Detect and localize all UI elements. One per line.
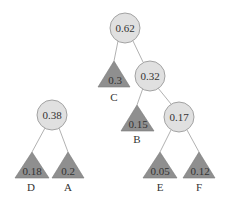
leaf-label: F [196, 181, 202, 193]
edge-062-032 [133, 41, 143, 62]
leaf-value: 0.2 [61, 165, 75, 177]
edge-038-D [32, 128, 45, 152]
leaf-value: 0.3 [108, 74, 122, 86]
node-value: 0.38 [42, 109, 62, 121]
leaf-F: 0.12 F [183, 152, 215, 193]
leaf-A: 0.2 A [52, 152, 84, 193]
internal-node-062: 0.62 [110, 13, 140, 43]
leaf-C: 0.3 C [98, 61, 130, 103]
leaf-E: 0.05 E [143, 152, 177, 193]
leaf-label: E [157, 181, 164, 193]
internal-node-038: 0.38 [37, 100, 67, 130]
node-value: 0.32 [140, 70, 159, 82]
huffman-forest-diagram: 0.62 0.32 0.17 0.38 0.3 C 0.15 B 0.05 E … [0, 0, 227, 203]
leaf-label: C [110, 91, 117, 103]
leaf-value: 0.12 [190, 165, 209, 177]
node-value: 0.17 [169, 111, 189, 123]
leaf-label: D [27, 181, 35, 193]
internal-node-032: 0.32 [135, 61, 165, 91]
leaf-label: B [133, 133, 140, 145]
edge-017-E [160, 130, 171, 152]
edge-032-017 [158, 88, 171, 104]
leaf-label: A [64, 181, 72, 193]
leaf-value: 0.05 [150, 165, 170, 177]
internal-node-017: 0.17 [164, 102, 194, 132]
leaf-value: 0.15 [128, 118, 148, 130]
node-value: 0.62 [115, 22, 134, 34]
edge-032-B [137, 88, 143, 105]
edge-038-A [59, 128, 68, 152]
edge-062-C [114, 41, 118, 61]
edge-017-F [187, 130, 199, 152]
leaf-value: 0.18 [22, 165, 42, 177]
leaf-D: 0.18 D [15, 152, 49, 193]
leaf-B: 0.15 B [121, 105, 154, 145]
